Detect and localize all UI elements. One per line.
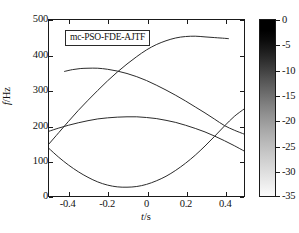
y-tick-label-400: 400: [20, 50, 48, 61]
colorbar-tick-30: [276, 172, 280, 173]
colorbar-tick-5: [276, 45, 280, 46]
x-tick-n04: [69, 192, 70, 196]
x-tick-top-n04: [69, 20, 70, 24]
curve-valley-curve: [49, 109, 244, 187]
curve-hump-curve: [49, 117, 244, 151]
x-tick-top-04: [226, 20, 227, 24]
y-tick-label-300: 300: [20, 85, 48, 96]
x-tick-label-n04: -0.4: [51, 199, 85, 210]
y-tick-right-100: [240, 162, 244, 163]
y-tick-right-0: [240, 197, 244, 198]
colorbar-label-25: -25: [282, 142, 295, 153]
y-tick-right-200: [240, 127, 244, 128]
y-tick-label-500: 500: [20, 14, 48, 25]
colorbar-tick-0: [276, 20, 280, 21]
figure: mc-PSO-FDE-AJTF 500 400 300 200 100 0 -0…: [0, 0, 299, 233]
x-tick-label-n02: -0.2: [90, 199, 124, 210]
colorbar-label-15: -15: [282, 91, 295, 102]
curve-rising-curve: [49, 36, 228, 144]
x-tick-top-02: [187, 20, 188, 24]
curve-descending-curve: [65, 68, 244, 134]
plot-area: mc-PSO-FDE-AJTF: [48, 19, 245, 197]
colorbar-tick-15: [276, 96, 280, 97]
curves-svg: [49, 20, 244, 196]
y-tick-label-100: 100: [20, 156, 48, 167]
x-axis-label: t/s: [141, 211, 151, 222]
legend-label: mc-PSO-FDE-AJTF: [65, 30, 150, 46]
colorbar-label-5: -5: [282, 40, 290, 51]
y-tick-100: [49, 162, 53, 163]
x-tick-0: [148, 192, 149, 196]
y-tick-300: [49, 91, 53, 92]
y-axis-label: f/Hz: [1, 87, 12, 105]
colorbar-tick-10: [276, 71, 280, 72]
colorbar: [259, 19, 276, 197]
x-tick-top-n02: [108, 20, 109, 24]
x-tick-label-02: 0.2: [169, 199, 203, 210]
x-tick-n02: [108, 192, 109, 196]
x-tick-02: [187, 192, 188, 196]
y-tick-right-500: [240, 20, 244, 21]
y-tick-label-200: 200: [20, 121, 48, 132]
x-tick-04: [226, 192, 227, 196]
colorbar-label-30: -30: [282, 167, 295, 178]
y-tick-400: [49, 56, 53, 57]
colorbar-label-10: -10: [282, 66, 295, 77]
y-tick-right-300: [240, 91, 244, 92]
colorbar-tick-25: [276, 147, 280, 148]
x-tick-top-0: [148, 20, 149, 24]
y-tick-label-0: 0: [20, 191, 48, 202]
y-tick-right-400: [240, 56, 244, 57]
colorbar-label-0: 0: [282, 15, 287, 26]
colorbar-label-20: -20: [282, 116, 295, 127]
colorbar-tick-20: [276, 121, 280, 122]
y-tick-500: [49, 20, 53, 21]
colorbar-label-35: -35: [282, 191, 295, 202]
x-tick-label-0: 0: [130, 199, 164, 210]
colorbar-tick-35: [276, 196, 280, 197]
y-tick-0: [49, 197, 53, 198]
x-tick-label-04: 0.4: [208, 199, 242, 210]
y-tick-200: [49, 127, 53, 128]
